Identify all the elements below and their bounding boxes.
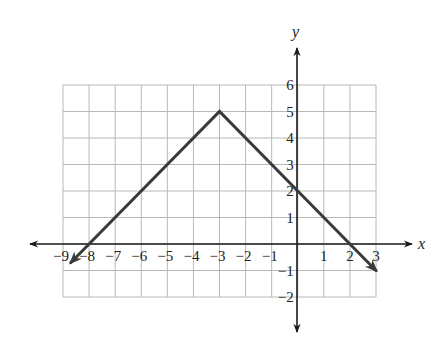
x-tick-label: 2 xyxy=(346,248,354,264)
x-tick-label: 3 xyxy=(372,248,380,264)
y-tick-label: 6 xyxy=(286,77,294,93)
x-tick-label: −1 xyxy=(262,248,278,264)
chart: x y −9−8−7−6−5−4−3−2−1123 654321−1−2 xyxy=(0,0,448,350)
y-tick-label: −1 xyxy=(278,263,294,279)
y-tick-label: 3 xyxy=(286,157,294,173)
y-tick-label: 5 xyxy=(286,104,294,120)
y-axis-label: y xyxy=(290,23,300,41)
x-tick-label: −2 xyxy=(236,248,252,264)
x-tick-label: −9 xyxy=(53,248,69,264)
x-tick-label: −7 xyxy=(105,248,121,264)
grid xyxy=(63,85,376,297)
x-tick-label: −5 xyxy=(157,248,173,264)
y-tick-label: 1 xyxy=(286,210,294,226)
x-tick-label: 1 xyxy=(320,248,328,264)
x-tick-labels: −9−8−7−6−5−4−3−2−1123 xyxy=(53,248,380,264)
x-axis-label: x xyxy=(417,235,425,252)
y-tick-label: −2 xyxy=(278,289,294,305)
x-tick-label: −6 xyxy=(131,248,147,264)
x-tick-label: −4 xyxy=(183,248,199,264)
x-tick-label: −3 xyxy=(210,248,226,264)
y-tick-label: 4 xyxy=(286,130,294,146)
